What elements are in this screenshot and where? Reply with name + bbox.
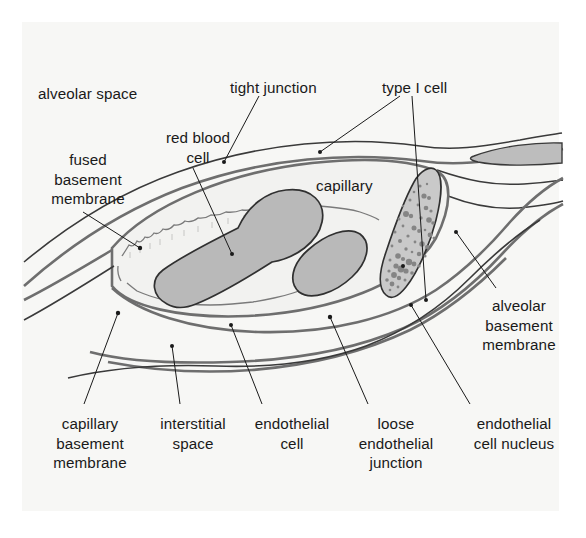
leader-dot-interstitial-space [170, 344, 174, 348]
label-line: alveolar [464, 296, 574, 316]
label-line: membrane [32, 189, 144, 209]
label-line: junction [346, 453, 446, 473]
fused-basement-membrane-lines [24, 250, 114, 320]
label-capillary-basement-membrane: capillarybasementmembrane [36, 414, 144, 473]
leader-dot-alveolar-basement-membrane [454, 230, 458, 234]
leader-endothelial-cell [231, 325, 262, 404]
label-line: red blood [150, 128, 246, 148]
leader-dot-endothelial-cell [229, 323, 233, 327]
leader-endothelial-cell-nucleus [411, 305, 470, 404]
label-line: space [146, 434, 240, 454]
label-line: basement [36, 434, 144, 454]
label-line: capillary [316, 176, 373, 196]
leader-dot-nucleus-inner [401, 264, 405, 268]
label-interstitial-space: interstitialspace [146, 414, 240, 453]
leader-dot-endothelial-cell-nucleus [409, 303, 413, 307]
label-line: type I cell [382, 78, 447, 98]
label-endothelial-cell-nucleus: endothelialcell nucleus [456, 414, 572, 453]
label-tight-junction: tight junction [230, 78, 317, 98]
leader-dot-type-i-cell-b [424, 298, 428, 302]
label-line: basement [32, 170, 144, 190]
label-line: cell nucleus [456, 434, 572, 454]
figure-root: alveolar spacetight junctiontype I cellr… [0, 0, 586, 538]
leader-loose-endothelial-junction [330, 317, 368, 404]
label-alveolar-basement-membrane: alveolarbasementmembrane [464, 296, 574, 355]
leader-capillary-basement-membrane [84, 313, 118, 404]
leader-dot-type-i-cell-a [318, 150, 322, 154]
label-line: endothelial [456, 414, 572, 434]
label-line: endothelial [346, 434, 446, 454]
label-line: fused [32, 150, 144, 170]
label-line: cell [150, 148, 246, 168]
label-red-blood-cell: red bloodcell [150, 128, 246, 167]
leader-type-i-cell-a [320, 96, 400, 152]
label-line: membrane [36, 453, 144, 473]
label-line: tight junction [230, 78, 317, 98]
label-line: membrane [464, 335, 574, 355]
label-line: capillary [36, 414, 144, 434]
label-type-i-cell: type I cell [382, 78, 447, 98]
label-loose-endothelial-junction: looseendothelialjunction [346, 414, 446, 473]
label-capillary: capillary [316, 176, 373, 196]
label-fused-basement-membrane: fusedbasementmembrane [32, 150, 144, 209]
label-line: alveolar space [38, 84, 137, 104]
leader-interstitial-space [172, 346, 180, 404]
label-line: basement [464, 316, 574, 336]
label-endothelial-cell: endothelialcell [244, 414, 340, 453]
leader-dot-red-blood-cell [230, 252, 234, 256]
leader-dot-fused-basement-membrane [138, 246, 142, 250]
leader-dot-loose-endothelial-junction [328, 315, 332, 319]
leader-dot-capillary-basement-membrane [116, 311, 120, 315]
label-line: interstitial [146, 414, 240, 434]
label-alveolar-space: alveolar space [38, 84, 137, 104]
label-line: endothelial [244, 414, 340, 434]
label-line: loose [346, 414, 446, 434]
label-line: cell [244, 434, 340, 454]
